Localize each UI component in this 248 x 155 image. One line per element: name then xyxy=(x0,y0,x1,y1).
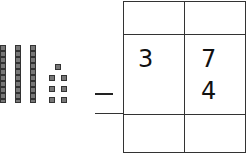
unit-cube xyxy=(49,75,55,81)
header-row-divider xyxy=(124,34,245,35)
ten-rod xyxy=(30,45,36,103)
ten-rod xyxy=(15,45,21,103)
unit-cube xyxy=(49,86,55,92)
unit-cube xyxy=(61,97,67,103)
answer-underline xyxy=(95,113,123,114)
minuend-ones: 7 xyxy=(201,47,216,71)
column-divider xyxy=(184,2,185,152)
unit-cube xyxy=(61,75,67,81)
minus-sign xyxy=(95,93,113,95)
answer-row-divider xyxy=(124,114,245,115)
unit-cube xyxy=(55,64,61,70)
unit-cube xyxy=(61,86,67,92)
ten-rod xyxy=(0,45,6,103)
place-value-grid: 3 7 4 xyxy=(123,1,246,153)
minuend-tens: 3 xyxy=(138,47,153,71)
unit-cube xyxy=(49,97,55,103)
subtrahend-ones: 4 xyxy=(201,79,216,103)
